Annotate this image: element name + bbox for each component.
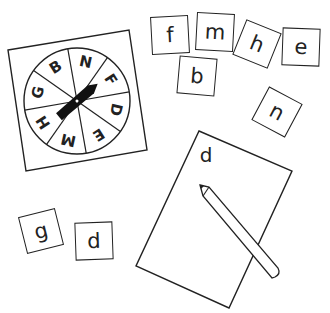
letter-tiles: fmhebngd	[0, 0, 330, 313]
letter-tile-b[interactable]: b	[176, 55, 217, 96]
illustration-canvas: BNFDEMHG d fmhebngd	[0, 0, 330, 313]
letter-tile-d[interactable]: d	[74, 221, 113, 260]
letter-tile-h[interactable]: h	[232, 19, 281, 68]
letter-tile-m[interactable]: m	[195, 12, 235, 52]
letter-tile-f[interactable]: f	[150, 15, 190, 55]
letter-tile-g[interactable]: g	[18, 208, 64, 254]
letter-tile-e[interactable]: e	[281, 27, 320, 66]
letter-tile-n[interactable]: n	[251, 86, 302, 137]
